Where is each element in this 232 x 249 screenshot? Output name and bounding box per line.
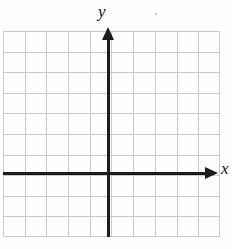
y-axis-arrow-icon: [102, 27, 114, 40]
x-axis-arrow-icon: [205, 167, 218, 179]
y-axis: [107, 36, 110, 237]
grid-right-border: [219, 31, 220, 237]
grid-bottom-border: [3, 236, 220, 237]
graph-grid: [3, 31, 220, 237]
y-axis-label: y: [98, 3, 106, 20]
scan-artifact-speck: [155, 13, 157, 15]
x-axis-label: x: [221, 160, 229, 177]
coordinate-grid-figure: y x: [0, 0, 232, 249]
x-axis: [3, 172, 209, 175]
